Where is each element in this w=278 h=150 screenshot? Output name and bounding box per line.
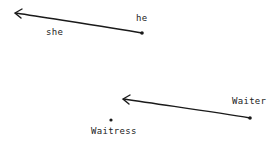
waiter-point: [248, 116, 252, 120]
waitress-point: [109, 118, 112, 121]
she-label: she: [46, 27, 63, 37]
he-label: he: [136, 13, 147, 23]
waitress-label: Waitress: [91, 126, 137, 136]
he-point: [140, 31, 144, 35]
waiter-label: Waiter: [232, 96, 266, 106]
waiter-waitress-arrow: [123, 95, 250, 118]
he-she-arrow: [15, 9, 142, 33]
